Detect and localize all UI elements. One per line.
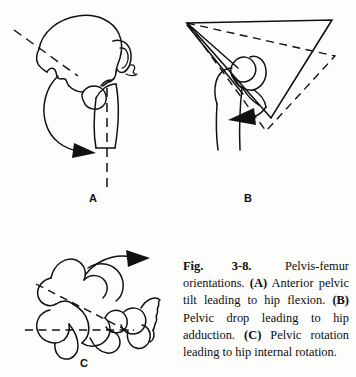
left-lower-inner-icon <box>64 324 69 340</box>
panel-b-reference-triangle-group <box>187 20 332 118</box>
dashed-oblique-axis-icon <box>14 30 78 76</box>
panel-b-pelvic-drop <box>180 8 356 198</box>
left-ilium-inner-icon <box>84 276 107 298</box>
figure-number: Fig. 3-8. <box>183 259 251 273</box>
femoral-head-outline-icon <box>231 57 256 82</box>
apex-connector-upper-icon <box>187 23 238 68</box>
pelvic-body-center-right-icon <box>82 318 110 346</box>
posterior-spine-notch-icon <box>47 68 69 86</box>
panel-a-motion-arrow-group <box>44 76 96 158</box>
femur-shaft-lateral-icon <box>115 84 118 148</box>
panel-c-axis-group <box>25 284 134 330</box>
left-inner-notch-icon <box>56 301 73 304</box>
arrow-head-adduction-icon <box>228 108 256 125</box>
left-asis-icon <box>38 278 56 306</box>
caption-tag-a: (A) <box>250 276 267 290</box>
ischium-outline-icon <box>69 86 83 92</box>
left-ilium-lobe-icon <box>51 259 85 280</box>
panel-label-a: A <box>89 193 97 204</box>
caption-tag-b: (B) <box>332 293 349 307</box>
left-ischium-lobe-icon <box>37 310 64 343</box>
caption-tag-c: (C) <box>244 328 261 342</box>
right-trochanter-lobe-icon <box>127 325 150 348</box>
femur-shaft-lateral-b-icon <box>216 104 218 150</box>
lower-center-lobe-icon <box>55 324 78 359</box>
panel-a-anterior-pelvic-tilt <box>0 2 180 202</box>
dashed-triangle-dropped-pelvis-icon <box>187 23 335 131</box>
coccyx-detail-icon <box>130 65 137 74</box>
arrow-head-tilt-icon <box>72 143 96 158</box>
dashed-oblique-rotated-axis-icon <box>36 284 126 330</box>
figure-page: A <box>0 0 356 377</box>
solid-triangle-level-pelvis-icon <box>187 20 332 118</box>
panel-label-b: B <box>244 193 252 204</box>
pelvis-outline-superior <box>37 259 160 359</box>
ilium-outline-icon <box>39 15 122 72</box>
pelvis-outline-lateral <box>37 15 137 109</box>
curved-arrow-anterior-tilt-icon <box>44 76 79 151</box>
femur-shaft-medial-icon <box>94 98 96 148</box>
panel-b-dropped-triangle-group <box>187 23 335 131</box>
figure-caption: Fig. 3-8. Pelvis-femur orientations. (A)… <box>183 258 349 361</box>
panel-a-reference-line-group <box>14 30 78 76</box>
panel-label-c: C <box>80 358 88 369</box>
arrow-head-rotation-icon <box>126 250 150 267</box>
panel-c-pelvic-rotation <box>8 238 178 373</box>
